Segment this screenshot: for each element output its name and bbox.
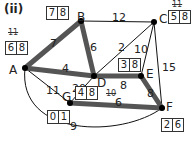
edge-weight-A-D: 4	[62, 63, 69, 74]
order-of-labelling: 2	[162, 119, 172, 131]
edge-weight-C-D: 2	[118, 42, 125, 53]
order-of-labelling: 4	[76, 87, 86, 99]
node-label-E: E	[146, 68, 154, 80]
order-of-labelling: 6	[6, 42, 16, 54]
edge-weight-E-F: 8	[147, 88, 154, 99]
final-value: 6	[172, 119, 183, 131]
node-label-G: G	[62, 91, 71, 103]
edge-weight-C-F: 15	[162, 62, 176, 73]
node-label-D: D	[97, 77, 106, 89]
node-label-C: C	[159, 13, 167, 25]
label-box-C: 58	[168, 10, 191, 24]
edge-weight-B-D: 6	[90, 42, 97, 53]
final-value: 8	[16, 42, 27, 54]
node-F	[159, 105, 165, 111]
label-box-A: 68	[5, 41, 28, 55]
edge-weight-G-F: 6	[115, 97, 122, 108]
node-E	[138, 73, 144, 79]
figure-label: (ii)	[4, 2, 23, 16]
final-value: 1	[58, 111, 69, 123]
order-of-labelling: 7	[47, 7, 57, 19]
label-box-G: 01	[47, 110, 70, 124]
crossed-out-value-C: 11	[172, 0, 182, 9]
final-value: 8	[179, 11, 190, 23]
edge-weight-A-F: 9	[70, 121, 77, 132]
node-label-B: B	[77, 11, 85, 23]
crossed-out-value-D: 10	[106, 89, 116, 98]
edge-A-D	[25, 68, 94, 76]
node-A	[22, 65, 28, 71]
order-of-labelling: 3	[119, 59, 129, 71]
final-value: 8	[86, 87, 97, 99]
order-of-labelling: 0	[48, 111, 58, 123]
edge-weight-B-C: 12	[112, 12, 126, 23]
final-value: 8	[57, 7, 68, 19]
crossed-out-value-A: 11	[8, 28, 18, 37]
edge-weight-D-E: 8	[120, 80, 127, 91]
edge-weight-A-B: 7	[50, 38, 57, 49]
edge-weight-A-G: 11	[46, 85, 60, 96]
label-box-D: 48	[75, 86, 98, 100]
node-C	[151, 19, 157, 25]
label-box-B: 78	[46, 6, 69, 20]
network-diagram: (ii) 122101520119764886A6811B78C5811D481…	[0, 0, 194, 144]
label-box-F: 26	[161, 118, 184, 132]
label-box-E: 38	[118, 58, 141, 72]
edge-weight-C-E: 10	[134, 44, 148, 55]
node-label-F: F	[166, 101, 173, 113]
order-of-labelling: 5	[169, 11, 179, 23]
node-label-A: A	[9, 64, 17, 76]
final-value: 8	[129, 59, 140, 71]
